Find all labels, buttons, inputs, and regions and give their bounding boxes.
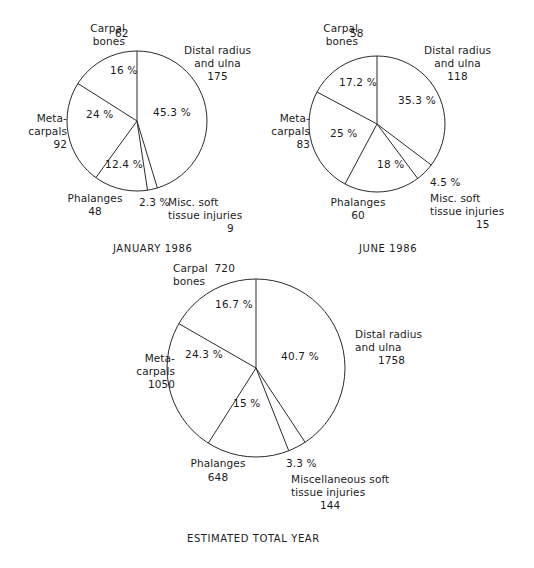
- pie-3-caption: ESTIMATED TOTAL YEAR: [187, 533, 320, 544]
- pie-2-value-metacarpals: 83: [248, 138, 310, 151]
- pie-3-label-misc-soft-tissue-line1: Miscellaneous soft: [291, 473, 389, 486]
- pie-3-value-phalanges: 648: [173, 471, 263, 484]
- pie-3-total-year: [167, 279, 345, 457]
- pie-2-label-misc-soft-tissue-line1: Misc. soft: [430, 192, 480, 205]
- pie-1-value-distal-radius-ulna: 175: [165, 70, 270, 83]
- pie-1-pct-metacarpals: 24 %: [86, 108, 113, 120]
- pie-2-pct-phalanges: 18 %: [377, 158, 404, 170]
- pie-2-label-metacarpals: Meta- carpals: [248, 112, 310, 138]
- pie-3-label-distal-radius-ulna: Distal radius and ulna: [355, 328, 465, 354]
- pie-1-pct-carpal-bones: 16 %: [110, 64, 137, 76]
- pie-3-pct-misc-soft-tissue: 3.3 %: [286, 457, 317, 470]
- pie-1-label-carpal-bones: Carpal bones: [40, 22, 125, 48]
- pie-3-label-metacarpals: Meta- carpals: [120, 352, 175, 378]
- pie-chart-figure: Carpal bones 62 Distal radius and ulna 1…: [0, 0, 534, 568]
- pie-3-pct-metacarpals: 24.3 %: [185, 348, 223, 360]
- pie-2-label-carpal-bones: Carpal bones: [273, 22, 358, 48]
- pie-3-value-metacarpals: 1050: [120, 378, 175, 391]
- pie-1-label-metacarpals: Meta- carpals: [5, 112, 67, 138]
- pie-2-label-distal-radius-ulna: Distal radius and ulna: [405, 44, 510, 70]
- pie-2-value-phalanges: 60: [320, 209, 396, 222]
- pie-3-pct-phalanges: 15 %: [233, 397, 260, 409]
- pie-3-pct-distal-radius-ulna: 40.7 %: [281, 350, 319, 362]
- pie-2-pct-metacarpals: 25 %: [330, 127, 357, 139]
- pie-1-pct-phalanges: 12.4 %: [105, 158, 143, 170]
- pie-2-pct-distal-radius-ulna: 35.3 %: [398, 94, 436, 106]
- pie-2-label-phalanges: Phalanges: [320, 196, 396, 209]
- pie-2-caption: JUNE 1986: [359, 243, 417, 254]
- pie-2-label-misc-soft-tissue-line2: tissue injuries: [430, 205, 504, 218]
- pie-slices-svg: [0, 0, 534, 568]
- pie-1-pct-distal-radius-ulna: 45.3 %: [153, 106, 191, 118]
- pie-1-label-distal-radius-ulna: Distal radius and ulna: [165, 44, 270, 70]
- pie-3-value-distal-radius-ulna: 1758: [378, 354, 488, 367]
- pie-2-pct-misc-soft-tissue: 4.5 %: [430, 176, 461, 189]
- pie-1-label-phalanges: Phalanges: [57, 192, 133, 205]
- pie-3-label-misc-soft-tissue-line2: tissue injuries: [291, 486, 365, 499]
- pie-1-value-carpal-bones: 62: [115, 27, 145, 40]
- pie-3-pct-carpal-bones: 16.7 %: [215, 298, 253, 310]
- pie-2-pct-carpal-bones: 17.2 %: [339, 76, 377, 88]
- pie-2-value-carpal-bones: 58: [350, 27, 380, 40]
- pie-3-label-carpal-bones-second-line: bones: [173, 275, 205, 288]
- pie-3-value-misc-soft-tissue: 144: [320, 499, 340, 512]
- pie-1-value-misc-soft-tissue: 9: [227, 222, 234, 235]
- pie-2-value-misc-soft-tissue: 15: [476, 218, 490, 231]
- pie-1-value-phalanges: 48: [57, 205, 133, 218]
- pie-3-label-phalanges: Phalanges: [173, 457, 263, 470]
- pie-1-caption: JANUARY 1986: [113, 243, 193, 254]
- pie-1-label-misc-soft-tissue-line2: tissue injuries: [168, 209, 242, 222]
- pie-1-label-misc-soft-tissue-line1: Misc. soft: [168, 196, 218, 209]
- pie-1-value-metacarpals: 92: [5, 138, 67, 151]
- pie-2-value-distal-radius-ulna: 118: [405, 70, 510, 83]
- pie-1-pct-misc-soft-tissue: 2.3 %: [139, 196, 170, 209]
- pie-3-label-carpal-bones: Carpal 720: [173, 262, 235, 275]
